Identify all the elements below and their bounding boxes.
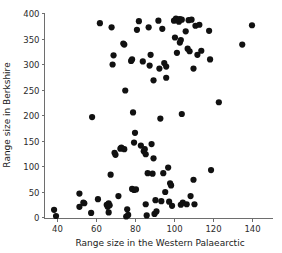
data-point: [150, 155, 156, 161]
data-point: [121, 42, 127, 48]
scatter-plot-figure: 050100150200250300350400 406080100120140…: [0, 0, 282, 253]
data-point: [183, 28, 189, 34]
data-point: [147, 62, 153, 68]
data-point: [143, 201, 149, 207]
data-point: [144, 212, 150, 218]
data-point: [188, 17, 194, 23]
data-point: [133, 186, 139, 192]
data-point: [97, 20, 103, 26]
data-point: [190, 65, 196, 71]
tick-marks: [42, 14, 253, 222]
data-point: [150, 77, 156, 83]
data-point: [148, 141, 154, 147]
data-point: [122, 87, 128, 93]
data-point: [131, 139, 137, 145]
x-tick-label: 40: [52, 224, 63, 234]
data-point: [198, 48, 204, 54]
data-point: [115, 193, 121, 199]
data-point: [179, 111, 185, 117]
data-point: [112, 152, 118, 158]
data-point: [106, 209, 112, 215]
data-point: [156, 65, 162, 71]
data-points: [51, 16, 255, 220]
data-point: [196, 22, 202, 28]
data-point: [109, 61, 115, 67]
data-point: [132, 130, 138, 136]
data-point: [89, 114, 95, 120]
y-tick-label: 150: [23, 137, 39, 147]
data-point: [129, 56, 135, 62]
data-point: [136, 18, 142, 24]
data-point: [149, 171, 155, 177]
data-point: [152, 197, 158, 203]
data-point: [159, 26, 165, 32]
data-point: [208, 167, 214, 173]
y-tick-label: 250: [23, 86, 39, 96]
x-tick-label: 120: [205, 224, 221, 234]
data-point: [108, 172, 114, 178]
data-point: [163, 75, 169, 81]
y-tick-label: 350: [23, 35, 39, 45]
data-point: [206, 28, 212, 34]
data-point: [81, 200, 87, 206]
data-point: [109, 24, 115, 30]
data-point: [76, 190, 82, 196]
data-point: [124, 206, 130, 212]
x-axis-title: Range size in the Western Palaearctic: [75, 238, 244, 248]
x-tick-label: 60: [91, 224, 102, 234]
data-point: [157, 115, 163, 121]
data-point: [143, 151, 149, 157]
data-point: [168, 182, 174, 188]
data-point: [53, 213, 59, 219]
data-point: [160, 170, 166, 176]
y-tick-label: 100: [23, 162, 39, 172]
data-point: [187, 193, 193, 199]
data-point: [207, 56, 213, 62]
data-point: [169, 203, 175, 209]
data-point: [191, 201, 197, 207]
data-point: [95, 196, 101, 202]
data-point: [165, 164, 171, 170]
y-tick-labels: 050100150200250300350400: [23, 9, 39, 223]
y-tick-label: 0: [34, 213, 39, 223]
data-point: [51, 207, 57, 213]
axes: [45, 13, 273, 219]
data-point: [179, 17, 185, 23]
plot-canvas: 050100150200250300350400 406080100120140…: [0, 0, 282, 253]
data-point: [110, 52, 116, 58]
data-point: [121, 146, 127, 152]
data-point: [162, 189, 168, 195]
data-point: [140, 58, 146, 64]
x-tick-labels: 406080100120140: [52, 224, 261, 234]
data-point: [249, 22, 255, 28]
data-point: [125, 212, 131, 218]
data-point: [88, 210, 94, 216]
data-point: [153, 208, 159, 214]
x-tick-label: 100: [166, 224, 182, 234]
data-point: [155, 18, 161, 24]
y-tick-label: 200: [23, 111, 39, 121]
y-tick-label: 400: [23, 9, 39, 19]
y-tick-label: 300: [23, 60, 39, 70]
data-point: [107, 202, 113, 208]
data-point: [134, 27, 140, 33]
data-point: [158, 198, 164, 204]
x-tick-label: 140: [244, 224, 260, 234]
data-point: [216, 99, 222, 105]
data-point: [174, 50, 180, 56]
data-point: [178, 37, 184, 43]
data-point: [146, 24, 152, 30]
data-point: [148, 52, 154, 58]
data-point: [184, 201, 190, 207]
data-point: [239, 42, 245, 48]
data-point: [190, 177, 196, 183]
data-point: [187, 48, 193, 54]
data-point: [163, 63, 169, 69]
data-point: [130, 109, 136, 115]
x-tick-label: 80: [130, 224, 141, 234]
y-axis-title: Range size in Berkshire: [2, 62, 12, 168]
y-tick-label: 50: [29, 188, 40, 198]
data-point: [172, 34, 178, 40]
